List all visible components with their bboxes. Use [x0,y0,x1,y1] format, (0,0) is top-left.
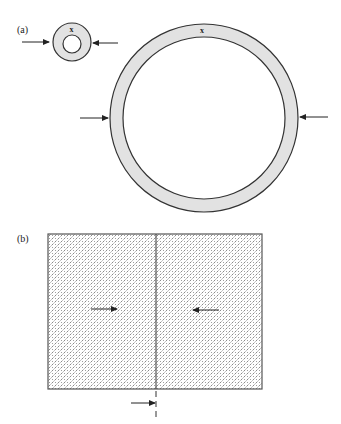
diagram-figure: (a) x x (b) [0,0,341,424]
panel-b-label: (b) [17,233,29,245]
panel-a-label: (a) [17,24,28,36]
small-ring: x [53,23,91,61]
small-ring-mark: x [70,25,74,34]
large-ring-mark: x [200,26,204,35]
panel-a: (a) x x [17,23,328,212]
stippled-block [48,234,262,389]
panel-b: (b) [17,233,262,421]
large-ring: x [110,24,298,212]
